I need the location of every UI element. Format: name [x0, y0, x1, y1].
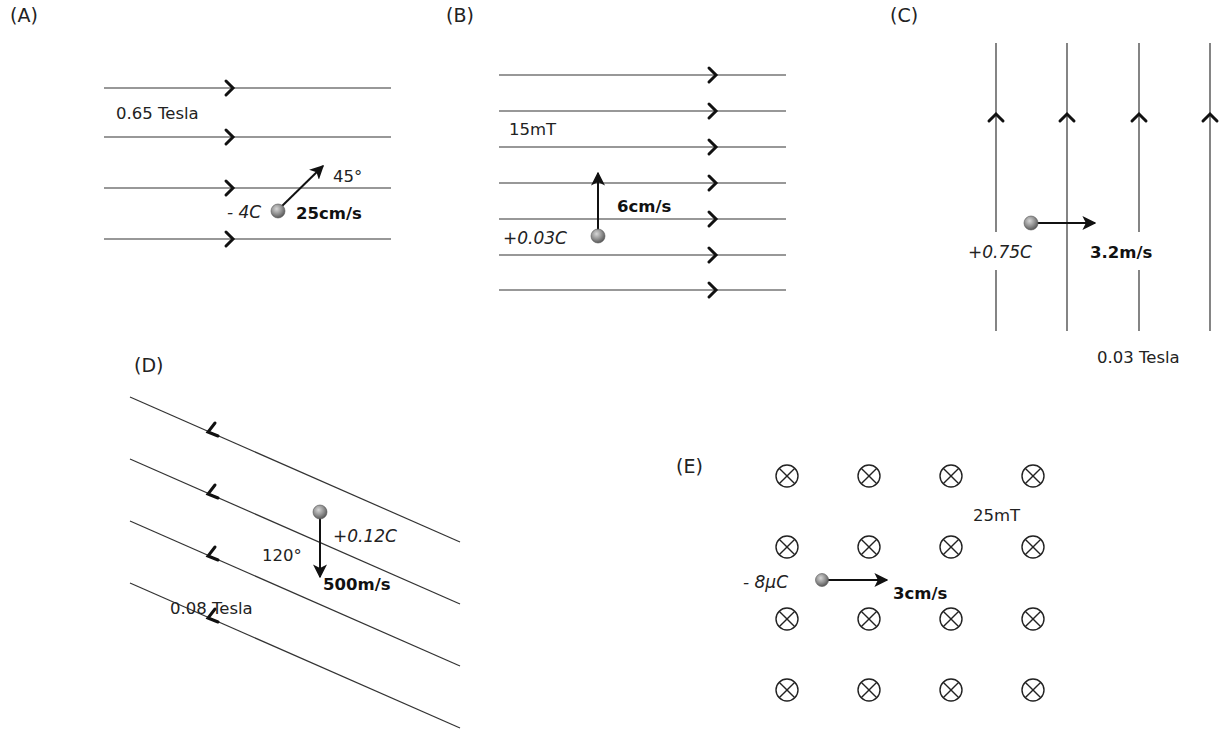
velocity-c: 3.2m/s [1090, 243, 1152, 262]
particle-icon [313, 505, 327, 519]
field-lines-b [499, 68, 786, 297]
field-into-page-icon [940, 679, 962, 701]
charge-e: - 8μC [743, 572, 788, 592]
panel-d-label: (D) [134, 354, 163, 376]
field-into-page-icon [858, 608, 880, 630]
field-into-page-icon [858, 465, 880, 487]
diagram-canvas: (A) 0.65 Tesla 45° - 4C 25cm/s (B) [0, 0, 1231, 737]
charge-c: +0.75C [968, 242, 1032, 262]
angle-a: 45° [333, 167, 362, 186]
field-into-page-icon [1022, 465, 1044, 487]
velocity-arrow-icon [281, 166, 323, 207]
charge-a: - 4C [227, 202, 261, 222]
particle-icon [1024, 216, 1038, 230]
panel-a: (A) 0.65 Tesla 45° - 4C 25cm/s [10, 4, 391, 246]
field-strength-e: 25mT [973, 506, 1021, 525]
field-into-page-icon [858, 679, 880, 701]
velocity-e: 3cm/s [893, 584, 947, 603]
velocity-d: 500m/s [323, 575, 391, 594]
chevron-left-icon [208, 423, 218, 436]
panel-a-label: (A) [10, 4, 38, 26]
chevron-left-icon [208, 485, 218, 498]
field-strength-b: 15mT [509, 120, 557, 139]
panel-b-label: (B) [446, 4, 474, 26]
charge-d: +0.12C [333, 526, 397, 546]
field-into-page-icon [1022, 679, 1044, 701]
velocity-b: 6cm/s [617, 197, 671, 216]
field-strength-d: 0.08 Tesla [170, 599, 253, 618]
field-into-page-icon [776, 465, 798, 487]
panel-c-label: (C) [890, 4, 918, 26]
velocity-a: 25cm/s [296, 204, 362, 223]
field-lines-c [989, 43, 1217, 331]
angle-d: 120° [262, 546, 302, 565]
field-strength-a: 0.65 Tesla [116, 104, 199, 123]
field-into-page-icon [776, 679, 798, 701]
field-into-page-icon [1022, 608, 1044, 630]
charge-b: +0.03C [503, 228, 567, 248]
particle-icon [816, 574, 829, 587]
field-into-page-icon [858, 536, 880, 558]
field-into-page-icon [776, 536, 798, 558]
panel-c: (C) +0.75C 3.2m/s 0.03 Tesla [890, 4, 1217, 367]
field-into-page-icon [940, 536, 962, 558]
panel-b: (B) 15mT 6cm/s +0.03C [446, 4, 786, 297]
field-into-page-icon [940, 465, 962, 487]
field-strength-c: 0.03 Tesla [1097, 348, 1180, 367]
field-into-page-icon [776, 608, 798, 630]
field-into-page-icon [1022, 536, 1044, 558]
particle-icon [271, 204, 285, 218]
panel-e-label: (E) [676, 455, 703, 477]
chevron-left-icon [208, 547, 218, 560]
panel-d: (D) +0.12C 120° 500m/s 0.08 Tesla [130, 354, 460, 728]
field-into-page-icon [940, 608, 962, 630]
panel-e: (E) 25mT - 8μC 3cm/s [676, 455, 1044, 701]
particle-icon [591, 229, 605, 243]
